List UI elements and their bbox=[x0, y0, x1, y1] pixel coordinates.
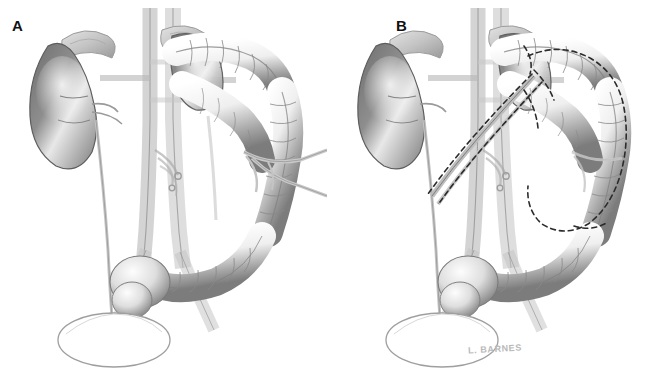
kidney-left-group bbox=[30, 43, 122, 169]
bladder-group-b bbox=[386, 313, 498, 367]
panel-a-illustration bbox=[0, 0, 327, 377]
panel-a: A bbox=[0, 0, 327, 377]
panel-b-illustration bbox=[328, 0, 655, 377]
figure-container: A bbox=[0, 0, 655, 377]
bladder-group bbox=[58, 313, 170, 367]
panel-b: B bbox=[328, 0, 655, 377]
kidney-left-group-b bbox=[358, 43, 446, 169]
ureter-group-b bbox=[424, 120, 440, 318]
